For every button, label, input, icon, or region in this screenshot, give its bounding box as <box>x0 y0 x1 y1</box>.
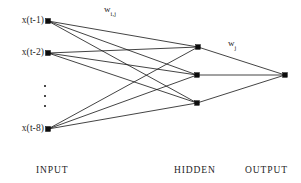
input-node-label-2: x(t-2) <box>6 47 44 57</box>
output-nodes-group <box>283 73 288 78</box>
output-node-1 <box>283 73 288 78</box>
weight-symbol-w: w <box>228 38 235 48</box>
layer-caption-hidden: HIDDEN <box>174 165 216 175</box>
weight-subscript-ij: i,j <box>111 10 117 17</box>
ellipsis-dot <box>44 105 46 107</box>
edge-input-3-hidden-3 <box>48 103 197 129</box>
weight-symbol-w: w <box>104 4 111 14</box>
input-node-label-1: x(t-1) <box>6 15 44 25</box>
edge-hidden-3-output-1 <box>197 75 285 103</box>
ellipsis-dot <box>44 85 46 87</box>
network-diagram: x(t-1) x(t-2) x(t-8) wi,j wj INPUT HIDDE… <box>0 0 301 183</box>
hidden-node-3 <box>195 101 200 106</box>
input-node-3 <box>46 127 51 132</box>
edges-hidden-to-output <box>197 47 285 103</box>
input-node-2 <box>46 51 51 56</box>
input-node-label-3: x(t-8) <box>6 123 44 133</box>
edge-hidden-1-output-1 <box>198 47 285 75</box>
weight-label-input-hidden: wi,j <box>104 4 116 16</box>
edge-input-3-hidden-1 <box>48 47 198 129</box>
edge-input-2-hidden-2 <box>48 53 197 75</box>
input-nodes-group <box>46 19 51 132</box>
edge-input-3-hidden-2 <box>48 75 197 129</box>
ellipsis-dot <box>44 95 46 97</box>
hidden-node-2 <box>195 73 200 78</box>
weight-label-hidden-output: wj <box>228 38 237 50</box>
weight-subscript-j: j <box>235 44 237 51</box>
edge-input-2-hidden-3 <box>48 53 197 103</box>
edges-input-to-hidden <box>48 21 198 129</box>
layer-caption-input: INPUT <box>36 165 68 175</box>
edge-input-1-hidden-3 <box>48 21 197 103</box>
edge-input-1-hidden-1 <box>48 21 198 47</box>
layer-caption-output: OUTPUT <box>245 165 288 175</box>
input-nodes-ellipsis <box>43 85 47 107</box>
hidden-nodes-group <box>195 45 201 106</box>
hidden-node-1 <box>196 45 201 50</box>
input-node-1 <box>46 19 51 24</box>
